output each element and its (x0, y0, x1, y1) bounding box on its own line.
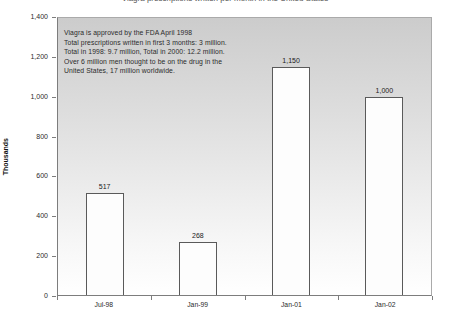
y-tick-mark (52, 97, 56, 98)
y-tick-label: 200 (0, 252, 48, 259)
y-tick-label: 800 (0, 133, 48, 140)
y-tick-mark (52, 296, 56, 297)
bar-value-label: 1,150 (282, 57, 300, 64)
y-tick-label: 400 (0, 212, 48, 219)
y-tick-label: 1,400 (0, 13, 48, 20)
bar-value-label: 517 (99, 183, 111, 190)
x-tick-mark (432, 296, 433, 300)
bar-value-label: 268 (192, 232, 204, 239)
y-tick-mark (52, 216, 56, 217)
bar-cell: 1,000 (338, 18, 431, 295)
x-tick-label: Jan-99 (166, 301, 230, 308)
bar-cell: 268 (151, 18, 244, 295)
y-tick-mark (52, 57, 56, 58)
x-tick-mark (338, 296, 339, 300)
y-tick-mark (52, 17, 56, 18)
bar (272, 67, 310, 295)
bar-cell: 517 (58, 18, 151, 295)
bar (86, 193, 124, 295)
bar (365, 97, 403, 295)
y-tick-mark (52, 176, 56, 177)
x-tick-label: Jan-01 (259, 301, 323, 308)
x-tick-label: Jul-98 (72, 301, 136, 308)
y-tick-mark (52, 137, 56, 138)
bars-container: 5172681,1501,000 (58, 18, 431, 295)
y-tick-label: 1,200 (0, 53, 48, 60)
x-tick-label: Jan-02 (353, 301, 417, 308)
plot-area: Viagra is approved by the FDA April 1998… (57, 17, 432, 296)
y-axis-title: Thousands (2, 138, 9, 175)
y-tick-label: 0 (0, 292, 48, 299)
bar-value-label: 1,000 (376, 87, 394, 94)
y-tick-label: 600 (0, 172, 48, 179)
x-tick-mark (57, 296, 58, 300)
chart-figure: Viagra prescriptions written per month i… (0, 0, 450, 333)
x-tick-mark (245, 296, 246, 300)
chart-title-clipped: Viagra prescriptions written per month i… (0, 0, 450, 3)
y-tick-label: 1,000 (0, 93, 48, 100)
y-tick-mark (52, 256, 56, 257)
x-tick-mark (151, 296, 152, 300)
bar (179, 242, 217, 295)
bar-cell: 1,150 (245, 18, 338, 295)
